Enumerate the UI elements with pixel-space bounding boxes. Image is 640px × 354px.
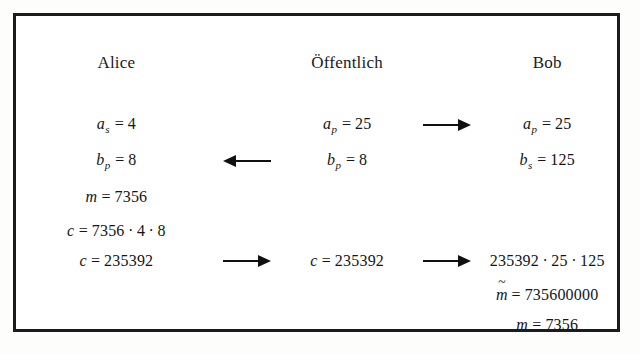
row-public-key-a-public-cell: ap=25 bbox=[278, 108, 416, 142]
row-public-key-b-arrow-a-cell bbox=[217, 144, 278, 178]
row-decrypt-intermediate-arrow-b-cell bbox=[416, 278, 477, 312]
row-encrypt-public-cell bbox=[278, 214, 416, 248]
row-encrypt-alice-cell: c=7356·4·8 bbox=[16, 214, 217, 248]
scanned-page-background: Alice Öffentlich Bob as=4ap=25ap=25bp=8b… bbox=[0, 0, 640, 354]
row-public-key-b-public-expr: bp=8 bbox=[327, 151, 367, 170]
column-title-public: Öffentlich bbox=[311, 53, 383, 73]
row-public-key-a-alice-cell: as=4 bbox=[16, 108, 217, 142]
row-public-key-b-arrow-a-left-icon bbox=[223, 154, 271, 168]
header-cell-alice: Alice bbox=[16, 46, 217, 80]
row-public-key-b-alice-cell: bp=8 bbox=[16, 144, 217, 178]
row-decrypt-intermediate-alice-cell bbox=[16, 278, 217, 312]
row-message-public-cell bbox=[278, 180, 416, 214]
row-encrypt: c=7356·4·8 bbox=[16, 214, 617, 248]
row-ciphertext: c=235392c=235392235392·25·125 bbox=[16, 244, 617, 278]
row-ciphertext-arrow-b-right-icon bbox=[423, 254, 471, 268]
row-public-key-a-arrow-a-cell bbox=[217, 108, 278, 142]
row-encrypt-alice-expr: c=7356·4·8 bbox=[67, 222, 166, 240]
row-public-key-a: as=4ap=25ap=25 bbox=[16, 108, 617, 142]
row-ciphertext-bob-cell: 235392·25·125 bbox=[478, 244, 617, 278]
row-ciphertext-arrow-a-cell bbox=[217, 244, 278, 278]
row-decrypt-final-arrow-a-cell bbox=[217, 308, 278, 342]
row-public-key-a-alice-expr: as=4 bbox=[97, 115, 136, 134]
row-message-arrow-a-cell bbox=[217, 180, 278, 214]
row-decrypt-final-public-cell bbox=[278, 308, 416, 342]
row-decrypt-final-bob-cell: m=7356 bbox=[478, 308, 617, 342]
figure-frame: Alice Öffentlich Bob as=4ap=25ap=25bp=8b… bbox=[13, 13, 620, 332]
row-message-alice-cell: m=7356 bbox=[16, 180, 217, 214]
row-public-key-a-bob-expr: ap=25 bbox=[523, 115, 571, 134]
row-decrypt-intermediate-bob-cell: ~m=735600000 bbox=[478, 278, 617, 312]
row-public-key-a-arrow-b-cell bbox=[416, 108, 477, 142]
row-public-key-b-arrow-b-cell bbox=[416, 144, 477, 178]
row-public-key-b-bob-expr: bs=125 bbox=[520, 151, 575, 170]
row-message-arrow-b-cell bbox=[416, 180, 477, 214]
row-ciphertext-public-expr: c=235392 bbox=[310, 252, 384, 270]
row-public-key-b-public-cell: bp=8 bbox=[278, 144, 416, 178]
row-message: m=7356 bbox=[16, 180, 617, 214]
row-encrypt-bob-cell bbox=[478, 214, 617, 248]
row-decrypt-intermediate-public-cell bbox=[278, 278, 416, 312]
column-title-bob: Bob bbox=[533, 53, 562, 73]
row-decrypt-intermediate-bob-expr: ~m=735600000 bbox=[496, 286, 598, 304]
row-decrypt-final-bob-expr: m=7356 bbox=[516, 316, 578, 334]
row-decrypt-intermediate-arrow-a-cell bbox=[217, 278, 278, 312]
row-message-bob-cell bbox=[478, 180, 617, 214]
row-public-key-b: bp=8bp=8bs=125 bbox=[16, 144, 617, 178]
column-title-alice: Alice bbox=[97, 53, 135, 73]
row-ciphertext-bob-expr: 235392·25·125 bbox=[490, 252, 605, 270]
header-cell-public: Öffentlich bbox=[278, 46, 416, 80]
row-public-key-a-bob-cell: ap=25 bbox=[478, 108, 617, 142]
row-encrypt-arrow-a-cell bbox=[217, 214, 278, 248]
row-message-alice-expr: m=7356 bbox=[85, 188, 147, 206]
row-public-key-a-public-expr: ap=25 bbox=[323, 115, 371, 134]
row-decrypt-final-alice-cell bbox=[16, 308, 217, 342]
row-public-key-a-arrow-b-right-icon bbox=[423, 118, 471, 132]
header-cell-arrow-left bbox=[217, 46, 278, 80]
row-ciphertext-alice-cell: c=235392 bbox=[16, 244, 217, 278]
header-cell-arrow-right bbox=[416, 46, 477, 80]
row-decrypt-final: m=7356 bbox=[16, 308, 617, 342]
row-decrypt-final-arrow-b-cell bbox=[416, 308, 477, 342]
column-header-row: Alice Öffentlich Bob bbox=[16, 46, 617, 80]
row-public-key-b-alice-expr: bp=8 bbox=[96, 151, 136, 170]
row-ciphertext-public-cell: c=235392 bbox=[278, 244, 416, 278]
row-encrypt-arrow-b-cell bbox=[416, 214, 477, 248]
protocol-diagram: Alice Öffentlich Bob as=4ap=25ap=25bp=8b… bbox=[16, 16, 617, 329]
row-ciphertext-alice-expr: c=235392 bbox=[79, 252, 153, 270]
row-ciphertext-arrow-b-cell bbox=[416, 244, 477, 278]
row-ciphertext-arrow-a-right-icon bbox=[223, 254, 271, 268]
row-public-key-b-bob-cell: bs=125 bbox=[478, 144, 617, 178]
header-cell-bob: Bob bbox=[478, 46, 617, 80]
row-decrypt-intermediate: ~m=735600000 bbox=[16, 278, 617, 312]
